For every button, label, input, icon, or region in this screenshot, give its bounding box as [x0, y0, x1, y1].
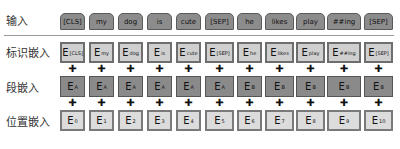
embedding-base: E	[305, 81, 311, 92]
embedding-subscript: 10	[379, 118, 385, 124]
input-token: [SEP]	[364, 13, 393, 30]
plus-icon: ✚	[68, 97, 78, 108]
embedding-base: E	[214, 81, 220, 92]
embedding-base: E	[122, 47, 128, 58]
segment-embedding: EA	[89, 76, 114, 97]
input-token: ##ing	[327, 13, 361, 30]
token-embedding: Edog	[118, 42, 143, 63]
embedding-subscript: A	[161, 84, 164, 90]
embedding-subscript: 6	[252, 118, 255, 124]
position-embedding: E10	[364, 110, 393, 131]
embedding-base: E	[274, 81, 280, 92]
segment-embedding: EA	[205, 76, 234, 97]
segment-embedding: EA	[60, 76, 85, 97]
plus-icon: ✚	[374, 97, 384, 108]
position-embedding: E1	[89, 110, 114, 131]
position-embedding: E5	[205, 110, 234, 131]
segment-embedding: EB	[237, 76, 262, 97]
plus-icon: ✚	[245, 97, 255, 108]
segment-embedding: EB	[265, 76, 294, 97]
embedding-subscript: A	[190, 84, 193, 90]
embedding-base: E	[125, 81, 131, 92]
plus-icon: ✚	[215, 97, 225, 108]
row-label-token-embeddings: 标识嵌入	[6, 44, 50, 60]
embedding-base: E	[154, 81, 160, 92]
input-token: play	[296, 13, 325, 30]
token-embedding: Ehe	[237, 42, 262, 63]
embedding-subscript: dog	[129, 50, 138, 56]
segment-embedding: EA	[118, 76, 143, 97]
embedding-base: E	[274, 115, 280, 126]
plus-icon: ✚	[306, 97, 316, 108]
embedding-subscript: 2	[133, 118, 136, 124]
embedding-base: E	[154, 115, 160, 126]
embedding-base: E	[302, 47, 308, 58]
embedding-base: E	[332, 47, 338, 58]
embedding-subscript: my	[101, 50, 109, 56]
plus-icon: ✚	[215, 63, 225, 74]
embedding-subscript: 3	[162, 118, 165, 124]
embedding-base: E	[214, 115, 220, 126]
plus-icon: ✚	[275, 63, 285, 74]
embedding-base: E	[305, 115, 311, 126]
embedding-base: E	[244, 81, 250, 92]
embedding-subscript: 9	[346, 118, 349, 124]
plus-icon: ✚	[155, 97, 165, 108]
position-embedding: E9	[327, 110, 361, 131]
embedding-base: E	[244, 115, 250, 126]
embedding-subscript: he	[250, 50, 256, 56]
embedding-base: E	[154, 47, 160, 58]
plus-icon: ✚	[68, 63, 78, 74]
embedding-base: E	[368, 47, 374, 58]
position-embedding: E4	[176, 110, 201, 131]
embedding-subscript: 0	[75, 118, 78, 124]
embedding-subscript: A	[221, 84, 224, 90]
embedding-subscript: cute	[187, 50, 198, 56]
embedding-base: E	[96, 81, 102, 92]
plus-icon: ✚	[184, 97, 194, 108]
input-token: cute	[176, 13, 201, 30]
segment-embedding: EB	[364, 76, 393, 97]
position-embedding: E8	[296, 110, 325, 131]
embedding-base: E	[125, 115, 131, 126]
token-embedding: E##ing	[327, 42, 361, 63]
embedding-subscript: B	[281, 84, 284, 90]
embedding-base: E	[243, 47, 249, 58]
embedding-base: E	[183, 115, 189, 126]
embedding-base: E	[339, 81, 345, 92]
input-token: is	[147, 13, 172, 30]
embedding-base: E	[94, 47, 100, 58]
embedding-base: E	[67, 81, 73, 92]
embedding-subscript: ##ing	[340, 50, 356, 56]
plus-icon: ✚	[155, 63, 165, 74]
token-embedding: Elikes	[265, 42, 294, 63]
input-token: my	[89, 13, 114, 30]
plus-icon: ✚	[97, 63, 107, 74]
divider	[4, 35, 394, 36]
embedding-subscript: B	[312, 84, 315, 90]
embedding-base: E	[372, 115, 378, 126]
position-embedding: E7	[265, 110, 294, 131]
token-embedding: E[SEP]	[364, 42, 393, 63]
embedding-base: E	[209, 47, 215, 58]
plus-icon: ✚	[184, 63, 194, 74]
embedding-subscript: B	[251, 84, 254, 90]
embedding-base: E	[96, 115, 102, 126]
embedding-base: E	[183, 81, 189, 92]
segment-embedding: EB	[296, 76, 325, 97]
embedding-subscript: [CLS]	[69, 50, 82, 56]
position-embedding: E0	[60, 110, 85, 131]
plus-icon: ✚	[275, 97, 285, 108]
row-label-input: 输入	[6, 12, 28, 28]
row-label-position-embeddings: 位置嵌入	[6, 113, 50, 129]
plus-icon: ✚	[339, 97, 349, 108]
token-embedding: E[CLS]	[60, 42, 85, 63]
position-embedding: E2	[118, 110, 143, 131]
input-token: he	[237, 13, 262, 30]
embedding-subscript: B	[380, 84, 383, 90]
embedding-subscript: [SEP]	[376, 50, 389, 56]
embedding-base: E	[179, 47, 185, 58]
plus-icon: ✚	[339, 63, 349, 74]
embedding-subscript: likes	[278, 50, 289, 56]
embedding-subscript: A	[74, 84, 77, 90]
